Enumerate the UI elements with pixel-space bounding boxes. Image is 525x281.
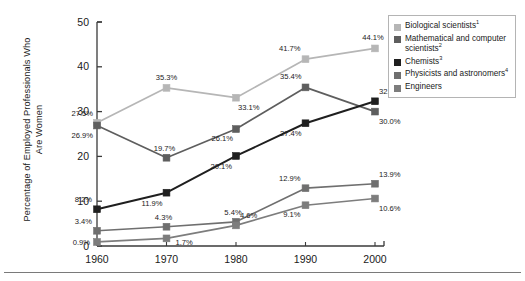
data-point-label: 33.1% [238,103,260,112]
x-tick-label: 2000 [363,253,387,265]
series-marker [302,202,309,209]
legend-swatch-icon [394,72,401,79]
series-marker [372,45,379,52]
legend-item-label: Physicists and astronomers4 [405,69,508,79]
data-point-label: 41.7% [279,44,301,53]
legend-swatch-icon [394,85,401,92]
legend-item-mathematical-and-computer-scientists[interactable]: Mathematical and computer scientists2 [394,34,511,54]
data-point-label: 30.0% [379,117,401,126]
series-line [97,48,375,122]
series-marker [233,94,240,101]
x-tick-label: 1980 [224,253,248,265]
data-point-label: 27.5% [71,109,93,118]
data-point-labels: 27.5%35.3%33.1%41.7%44.1%26.9%19.7%26.1%… [71,33,400,247]
series-marker [372,180,379,187]
data-point-label: 3.4% [75,217,93,226]
chart-legend: Biological scientists1 Mathematical and … [388,15,516,98]
legend-item-label: Biological scientists1 [405,21,479,31]
data-point-label: 12.9% [279,174,301,183]
figure: Percentage of Employed Professionals Who… [0,0,525,281]
data-point-label: 35.4% [280,72,302,81]
data-point-label: 26.9% [71,131,93,140]
data-point-label: 44.1% [362,33,384,42]
data-point-label: 9.1% [283,210,301,219]
series-marker [163,235,170,242]
series-marker [163,189,170,196]
y-tick-label: 50 [77,16,89,28]
series-marker [372,98,379,105]
data-point-label: 0.9% [73,238,91,247]
series-marker [302,84,309,91]
legend-item-label: Engineers [405,82,442,92]
series-marker [233,222,240,229]
series-marker [163,84,170,91]
y-tick-label: 40 [77,60,89,72]
legend-swatch-icon [394,24,401,31]
data-point-label: 10.6% [379,204,401,213]
y-tick-label: 20 [77,150,89,162]
data-point-label: 11.9% [142,199,163,208]
legend-swatch-icon [394,59,401,66]
series-marker [163,223,170,230]
data-point-label: 4.6% [240,211,258,220]
series-marker [302,120,309,127]
series-marker [302,185,309,192]
data-point-label: 26.1% [211,134,233,143]
data-point-label: 13.9% [379,170,401,179]
legend-item-biological-scientists[interactable]: Biological scientists1 [394,21,511,31]
series-marker [233,126,240,133]
legend-item-label: Chemists3 [405,57,442,67]
x-tick-label: 1990 [294,253,318,265]
data-point-label: 19.7% [154,144,176,153]
legend-item-chemists[interactable]: Chemists3 [394,57,511,67]
series-marker [94,122,101,129]
x-tick-labels: 19601970198019902000 [85,253,387,265]
series-marker [372,195,379,202]
series-marker [233,153,240,160]
series-marker [94,206,101,213]
legend-item-physicists-and-astronomers[interactable]: Physicists and astronomers4 [394,69,511,79]
series-marker [94,239,101,246]
series-marker [94,227,101,234]
x-tick-label: 1970 [155,253,179,265]
series-marker [163,154,170,161]
legend-item-label: Mathematical and computer scientists2 [405,34,511,54]
footer-divider [4,272,521,273]
x-tick-label: 1960 [85,253,109,265]
series-marker [302,56,309,63]
series-marker [372,108,379,115]
data-point-label: 8.2% [75,195,93,204]
data-point-label: 35.3% [156,73,178,82]
data-point-label: 20.1% [210,162,232,171]
legend-item-engineers[interactable]: Engineers [394,82,511,92]
data-point-label: 4.3% [155,213,173,222]
legend-swatch-icon [394,36,401,43]
data-point-label: 27.4% [280,129,302,138]
data-point-label: 1.7% [176,238,194,247]
